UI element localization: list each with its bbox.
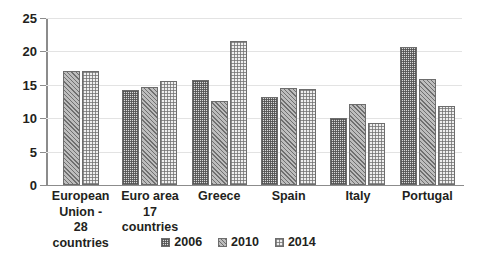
legend-label: 2010 (231, 236, 259, 249)
bar (349, 104, 366, 185)
bar (280, 88, 297, 185)
y-axis-tick-label: 15 (23, 78, 37, 91)
legend-item[interactable]: 2006 (161, 236, 202, 249)
bar (230, 41, 247, 185)
legend-label: 2006 (174, 236, 202, 249)
bar (400, 47, 417, 185)
bar-group (46, 18, 115, 185)
legend-label: 2014 (288, 236, 316, 249)
bar (438, 106, 455, 185)
bar-chart: 0510152025 European Union - 28 countries… (0, 0, 477, 257)
bar (419, 79, 436, 185)
bar (160, 81, 177, 185)
bar (211, 101, 228, 185)
legend-swatch-icon (218, 238, 227, 247)
bar (368, 123, 385, 185)
y-axis-tick-label: 5 (30, 145, 37, 158)
x-axis-category-label: Spain (254, 189, 323, 205)
x-axis-category-label: Euro area 17 countries (115, 189, 184, 236)
bar (299, 89, 316, 185)
y-axis-tick-mark (40, 185, 46, 186)
legend-swatch-icon (161, 238, 170, 247)
x-axis-category-label: Italy (323, 189, 392, 205)
bar (330, 118, 347, 185)
chart-legend: 200620102014 (0, 236, 477, 249)
y-axis-tick-label: 25 (23, 12, 37, 25)
y-axis-tick-label: 0 (30, 179, 37, 192)
x-axis-category-label: Greece (185, 189, 254, 205)
y-axis-tick-label: 20 (23, 45, 37, 58)
bar-group (115, 18, 184, 185)
bar (122, 90, 139, 185)
bar-group (323, 18, 392, 185)
bar-group (254, 18, 323, 185)
legend-item[interactable]: 2010 (218, 236, 259, 249)
bar (82, 71, 99, 185)
y-axis-tick-label: 10 (23, 112, 37, 125)
bar (261, 97, 278, 185)
bar-group (393, 18, 462, 185)
bar (141, 87, 158, 185)
bar (192, 80, 209, 185)
bar-group (185, 18, 254, 185)
bar (63, 71, 80, 185)
legend-swatch-icon (275, 238, 284, 247)
x-axis-line (46, 185, 464, 186)
x-axis-category-label: Portugal (393, 189, 462, 205)
legend-item[interactable]: 2014 (275, 236, 316, 249)
plot-area: 0510152025 (46, 18, 462, 185)
